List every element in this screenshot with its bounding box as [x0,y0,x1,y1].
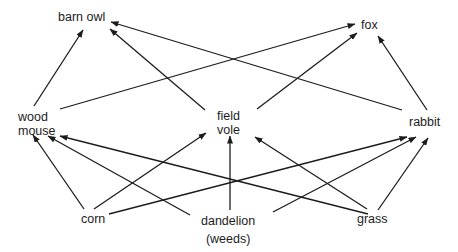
node-label-line: fox [361,18,378,32]
arrow-corn-to-wood-mouse [33,135,84,209]
node-label-line: corn [81,212,105,226]
arrow-field-vole-to-barn-owl [110,29,205,110]
node-label-line: mouse [18,124,56,138]
arrow-grass-to-field-vole [255,137,367,209]
arrow-grass-to-wood-mouse [60,136,368,214]
node-dandelion: dandelion (weeds) [201,212,255,248]
arrow-corn-to-rabbit [109,137,407,214]
node-corn: corn [81,212,105,226]
arrow-rabbit-to-fox [378,36,427,110]
node-label-line: grass [357,212,388,226]
node-fox: fox [361,18,378,32]
node-label-line: (weeds) [201,230,255,248]
node-label-line: field [217,109,240,123]
node-label-line: dandelion [201,212,255,230]
node-label-line: rabbit [409,115,440,129]
node-field-vole: field vole [217,109,240,137]
node-grass: grass [357,212,388,226]
node-wood-mouse: wood mouse [18,110,56,138]
arrow-rabbit-to-barn-owl [111,22,402,110]
node-label-line: vole [217,123,240,137]
food-web-diagram: barn owl fox wood mouse field vole rabbi… [0,0,458,252]
arrow-dandelion-to-rabbit [273,137,416,212]
arrow-wood-mouse-to-barn-owl [34,30,83,106]
node-rabbit: rabbit [409,115,440,129]
node-label-line: wood [18,110,56,124]
node-barn-owl: barn owl [58,10,105,24]
node-label-line: barn owl [58,10,105,24]
arrow-dandelion-to-wood-mouse [48,136,190,215]
arrow-wood-mouse-to-fox [60,24,355,109]
arrow-grass-to-rabbit [378,138,428,210]
